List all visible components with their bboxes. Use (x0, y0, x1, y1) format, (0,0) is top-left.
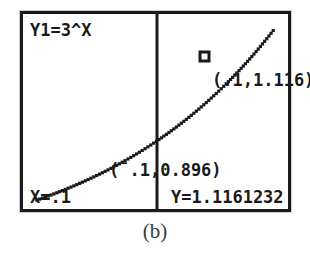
y-value-readout: Y=1.1161232 (171, 189, 284, 206)
x-value-readout: X=.1 (30, 189, 71, 206)
lower-point-label: (¯.1,0.896) (109, 162, 222, 179)
upper-point-label: (.1,1.116) (212, 72, 310, 89)
calculator-figure: Y1=3^X (.1,1.116) (¯.1,0.896) X=.1 Y=1.1… (0, 0, 310, 259)
figure-caption: (b) (0, 219, 310, 244)
function-label: Y1=3^X (30, 22, 91, 39)
cursor-square-marker (200, 52, 209, 61)
calculator-screen: Y1=3^X (.1,1.116) (¯.1,0.896) X=.1 Y=1.1… (20, 11, 291, 212)
